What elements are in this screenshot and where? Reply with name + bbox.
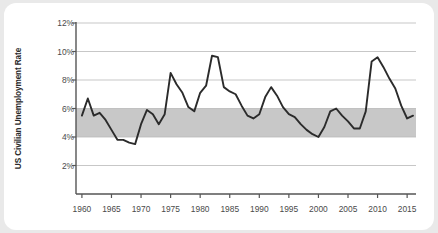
gridlines-group xyxy=(76,23,416,166)
plot-canvas xyxy=(0,0,438,233)
unemployment-rate-chart: US Civilian Unemployment Rate 2%4%6%8%10… xyxy=(0,0,438,233)
chart-screenshot: US Civilian Unemployment Rate 2%4%6%8%10… xyxy=(0,0,438,233)
axis-lines-group xyxy=(76,22,416,194)
